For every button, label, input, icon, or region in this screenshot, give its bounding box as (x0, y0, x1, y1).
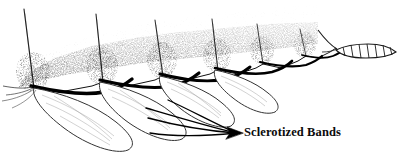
sclerotized-bands-label: Sclerotized Bands (244, 125, 341, 140)
figure-container: Sclerotized Bands (0, 0, 401, 154)
